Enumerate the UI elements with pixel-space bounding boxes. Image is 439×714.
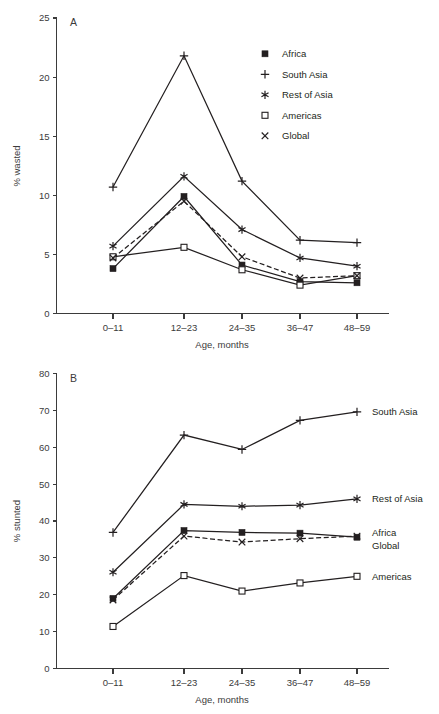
series-polyline [113,536,357,600]
data-point-plus [238,445,246,453]
series-end-label: Global [372,540,399,551]
x-tick-label: 0–11 [103,322,123,333]
y-tick-label: 20 [39,72,50,83]
series-south-asia [109,52,361,247]
data-point-asterisk-legend [261,91,268,99]
data-point-open-square [181,573,187,579]
y-tick-label: 5 [44,249,49,260]
data-point-plus [180,52,188,60]
data-point-open-square [297,282,303,288]
series-end-label: Africa [372,527,397,538]
series-polyline [113,176,357,266]
panel-b-x-axis-title: Age, months [195,694,249,705]
series-polyline [113,499,357,572]
figure-root: 0510152025 0–1112–2324–3536–4748–59 A % … [0,0,439,714]
y-tick-label: 60 [39,442,50,453]
axis-frame [57,18,389,314]
series-polyline [113,247,357,285]
y-tick-label: 80 [39,368,50,379]
panel-a-axes: 0510152025 0–1112–2324–3536–4748–59 [39,12,389,332]
legend-label: Rest of Asia [282,89,333,100]
chart-panel-b: 010203040506070800–1112–2324–3536–4748–5… [0,355,439,714]
y-tick-label: 10 [39,190,50,201]
legend-label: Global [282,130,309,141]
series-africa [110,193,360,285]
legend-label: Americas [282,110,322,121]
data-point-filled-square-legend [262,51,268,57]
y-tick-label: 50 [39,479,50,490]
data-point-plus [353,408,361,416]
y-axis-ticks: 0510152025 [39,12,57,319]
data-point-plus [296,416,304,424]
data-point-filled-square [354,280,360,286]
panel-a-svg: 0510152025 0–1112–2324–3536–4748–59 A % … [0,0,439,355]
x-tick-label: 24–35 [229,677,255,688]
series-end-label: South Asia [372,406,418,417]
data-point-plus [109,183,117,191]
data-point-cross-legend [262,133,269,140]
y-tick-label: 15 [39,131,50,142]
legend-label: South Asia [282,69,328,80]
chart-panel-a: 0510152025 0–1112–2324–3536–4748–59 A % … [0,0,439,355]
y-tick-label: 10 [39,626,50,637]
x-tick-label: 36–47 [287,322,313,333]
data-point-filled-square [297,530,303,536]
series-polyline [113,576,357,627]
y-tick-label: 25 [39,12,50,23]
x-tick-label: 36–47 [287,677,313,688]
data-point-filled-square [110,266,116,272]
panel-b-svg: 010203040506070800–1112–2324–3536–4748–5… [0,355,439,714]
series-americas [110,573,360,630]
data-point-filled-square [239,529,245,535]
series-rest-of-asia [109,172,360,270]
y-tick-label: 40 [39,515,50,526]
data-point-plus [109,528,117,536]
series-polyline [113,56,357,243]
data-point-plus [180,431,188,439]
series-end-label: Rest of Asia [372,493,423,504]
x-tick-label: 48–59 [344,322,370,333]
panel-a-y-axis-title: % wasted [11,145,22,186]
series-global [110,198,361,281]
data-point-open-square [239,588,245,594]
series-south-asia [109,408,361,537]
axis-frame [57,374,389,669]
y-tick-label: 0 [44,308,49,319]
data-point-open-square [181,244,187,250]
series-polyline [113,412,357,533]
panel-a-x-axis-title: Age, months [195,339,249,350]
y-tick-label: 20 [39,589,50,600]
data-point-open-square [239,267,245,273]
series-end-label: Americas [372,571,412,582]
panel-b-y-axis-title: % stunted [11,500,22,542]
panel-b-letter: B [70,372,77,384]
panel-a-series-group [109,52,361,289]
series-global [110,533,361,603]
data-point-plus-legend [261,70,269,78]
data-point-open-square [354,573,360,579]
x-tick-label: 48–59 [344,677,370,688]
y-tick-label: 0 [44,663,49,674]
data-point-open-square [110,623,116,629]
x-tick-label: 24–35 [229,322,255,333]
y-tick-label: 70 [39,405,50,416]
x-tick-label: 12–23 [171,322,197,333]
panel-a-letter: A [70,16,77,28]
y-tick-label: 30 [39,552,50,563]
legend-label: Africa [282,48,307,59]
data-point-cross [239,253,246,260]
data-point-open-square-legend [262,112,268,118]
x-tick-label: 12–23 [171,677,197,688]
panel-a-legend: AfricaSouth AsiaRest of AsiaAmericasGlob… [261,48,334,141]
x-tick-label: 0–11 [103,677,123,688]
data-point-open-square [297,580,303,586]
x-axis-ticks: 0–1112–2324–3536–4748–59 [103,314,370,333]
series-rest-of-asia [109,495,360,577]
data-point-filled-square [354,534,360,540]
data-point-plus [353,238,361,246]
data-point-filled-square [181,528,187,534]
